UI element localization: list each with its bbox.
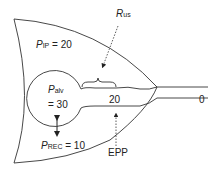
airway-upper-wall <box>81 87 208 89</box>
label-outlet-pressure: 0 <box>199 95 205 105</box>
label-airway-pressure: 20 <box>109 95 120 105</box>
label-p-ip: PIP = 20 <box>36 40 72 50</box>
resistance-brace <box>82 78 116 87</box>
label-p-rec: PREC = 10 <box>41 141 85 151</box>
airway-lower-wall <box>81 98 208 108</box>
label-p-alv: Palv <box>48 85 64 95</box>
label-p-alv-value: = 30 <box>48 100 68 110</box>
label-r-us: Rus <box>116 9 131 19</box>
label-epp: EPP <box>108 148 128 158</box>
